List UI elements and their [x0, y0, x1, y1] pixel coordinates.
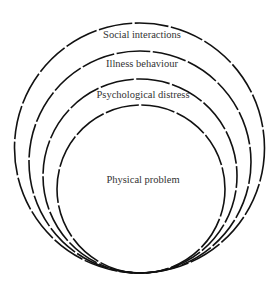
- label-illness-behaviour: Illness behaviour: [106, 58, 179, 69]
- nested-circles-diagram: Social interactions Illness behaviour Ps…: [0, 0, 279, 288]
- circle-illness-behaviour: [29, 51, 251, 273]
- label-physical-problem: Physical problem: [106, 174, 179, 185]
- circle-physical-problem: [57, 105, 225, 273]
- label-social-interactions: Social interactions: [103, 29, 181, 40]
- label-psychological-distress: Psychological distress: [96, 89, 189, 100]
